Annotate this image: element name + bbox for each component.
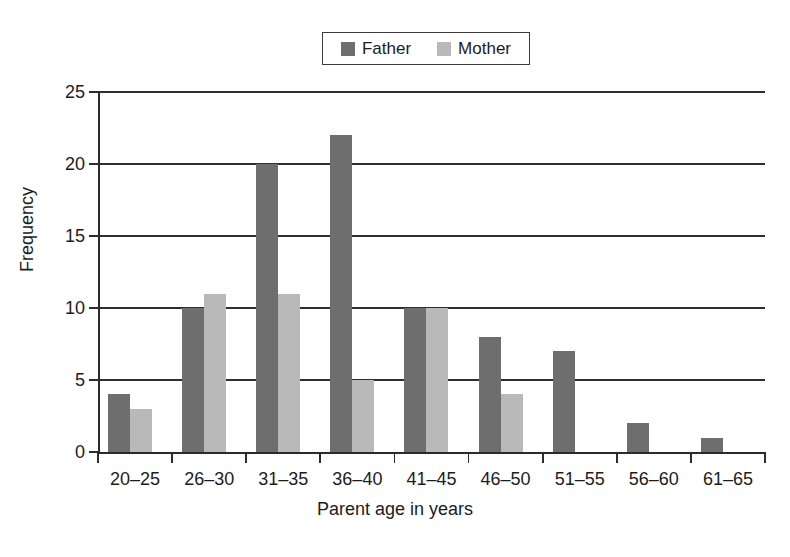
bar-mother-31-35 (278, 294, 300, 452)
bar-father-51-55 (553, 351, 575, 452)
x-axis-line (98, 452, 765, 454)
legend-swatch-mother-icon (437, 42, 451, 56)
bar-mother-26-30 (204, 294, 226, 452)
bar-mother-41-45 (426, 308, 448, 452)
bar-father-36-40 (330, 135, 352, 452)
y-axis-title: Frequency (18, 187, 36, 272)
legend-swatch-father-icon (341, 42, 355, 56)
y-tick-label: 20 (65, 155, 85, 173)
gridline (98, 91, 765, 93)
y-tick-label: 10 (65, 299, 85, 317)
y-tick-label: 15 (65, 227, 85, 245)
legend-entry-father: Father (341, 40, 411, 57)
bar-mother-36-40 (352, 380, 374, 452)
y-axis-line (98, 92, 100, 452)
bar-father-56-60 (627, 423, 649, 452)
legend-label-father: Father (362, 40, 411, 57)
legend-label-mother: Mother (458, 40, 511, 57)
bar-father-46-50 (479, 337, 501, 452)
gridline (98, 235, 765, 237)
x-category-label: 51–55 (555, 470, 605, 488)
plot-area: 0510152025 20–2526–3031–3536–4041–4546–5… (98, 92, 765, 452)
bar-mother-20-25 (130, 409, 152, 452)
bar-father-61-65 (701, 438, 723, 452)
x-category-label: 26–30 (184, 470, 234, 488)
bar-father-41-45 (404, 308, 426, 452)
x-category-label: 56–60 (629, 470, 679, 488)
bar-father-26-30 (182, 308, 204, 452)
bar-father-31-35 (256, 164, 278, 452)
bar-mother-46-50 (501, 394, 523, 452)
y-tick-mark (89, 163, 98, 165)
bar-chart-figure: Father Mother 0510152025 20–2526–3031–35… (0, 0, 790, 557)
x-category-label: 41–45 (406, 470, 456, 488)
x-category-label: 46–50 (481, 470, 531, 488)
y-tick-mark (89, 379, 98, 381)
gridline (98, 163, 765, 165)
bar-father-20-25 (108, 394, 130, 452)
x-category-label: 36–40 (332, 470, 382, 488)
y-tick-mark (89, 91, 98, 93)
y-tick-label: 25 (65, 83, 85, 101)
y-tick-label: 0 (75, 443, 85, 461)
legend-entry-mother: Mother (437, 40, 511, 57)
y-tick-mark (89, 307, 98, 309)
x-category-label: 31–35 (258, 470, 308, 488)
y-tick-label: 5 (75, 371, 85, 389)
chart-legend: Father Mother (322, 32, 530, 65)
x-category-label: 61–65 (703, 470, 753, 488)
x-axis-title: Parent age in years (0, 500, 790, 518)
y-tick-mark (89, 235, 98, 237)
x-category-label: 20–25 (110, 470, 160, 488)
